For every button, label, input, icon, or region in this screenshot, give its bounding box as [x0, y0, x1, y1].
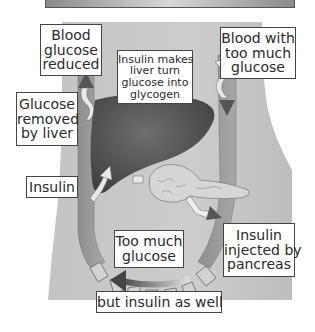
- label-line: glucose: [221, 60, 295, 75]
- label-blood-with-too-much-glucose: Blood with too much glucose: [220, 27, 296, 79]
- label-line: Insulin: [27, 180, 77, 195]
- label-but-insulin-as-well: but insulin as well: [96, 291, 222, 313]
- label-line: too much: [221, 46, 295, 61]
- label-insulin: Insulin: [26, 176, 78, 198]
- label-line: Glucose: [17, 97, 77, 112]
- label-line: Insulin: [224, 228, 294, 243]
- label-insulin-makes-liver: Insulin makes liver turn glucose into gl…: [117, 50, 193, 104]
- label-line: but insulin as well: [97, 295, 221, 310]
- label-line: glucose: [41, 43, 101, 58]
- label-line: glucose: [115, 249, 183, 264]
- label-glucose-removed-by-liver: Glucose removed by liver: [16, 92, 78, 146]
- label-insulin-injected-by-pancreas: Insulin injected by pancreas: [223, 223, 295, 277]
- label-line: reduced: [41, 57, 101, 72]
- label-line: by liver: [17, 126, 77, 141]
- label-line: glucose into: [118, 77, 192, 89]
- label-line: pancreas: [224, 257, 294, 272]
- label-line: Blood: [41, 28, 101, 43]
- label-too-much-glucose: Too much glucose: [114, 230, 184, 268]
- label-line: Blood with: [221, 31, 295, 46]
- label-line: removed: [17, 112, 77, 127]
- label-line: injected by: [224, 243, 294, 258]
- pancreas-duct: [133, 176, 143, 183]
- label-line: Too much: [115, 234, 183, 249]
- label-line: glycogen: [118, 89, 192, 101]
- label-blood-glucose-reduced: Blood glucose reduced: [40, 24, 102, 76]
